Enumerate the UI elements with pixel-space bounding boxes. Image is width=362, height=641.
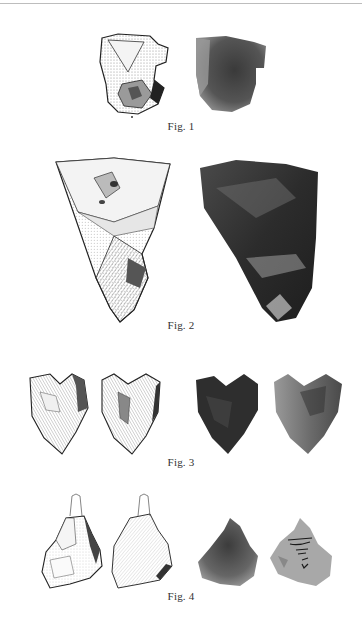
fig4-photograph-a bbox=[196, 516, 262, 588]
fig3-photograph-b bbox=[270, 372, 344, 456]
fig1-photograph bbox=[190, 34, 270, 114]
fig2-photograph bbox=[196, 158, 320, 324]
fig3-photograph-a bbox=[192, 372, 262, 456]
fig4-drawing-a bbox=[40, 494, 106, 590]
figure-4-caption: Fig. 4 bbox=[0, 590, 362, 602]
fig4-photograph-b bbox=[268, 516, 338, 588]
top-border-line bbox=[0, 3, 362, 4]
figure-2-caption: Fig. 2 bbox=[0, 319, 362, 331]
fig2-drawing bbox=[54, 158, 172, 324]
figure-3-caption: Fig. 3 bbox=[0, 456, 362, 468]
figure-1-caption: Fig. 1 bbox=[0, 120, 362, 132]
fig1-drawing bbox=[98, 32, 170, 118]
fig4-drawing-b bbox=[110, 494, 176, 590]
fig3-drawing-a bbox=[26, 372, 92, 456]
fig3-drawing-b bbox=[98, 372, 164, 456]
